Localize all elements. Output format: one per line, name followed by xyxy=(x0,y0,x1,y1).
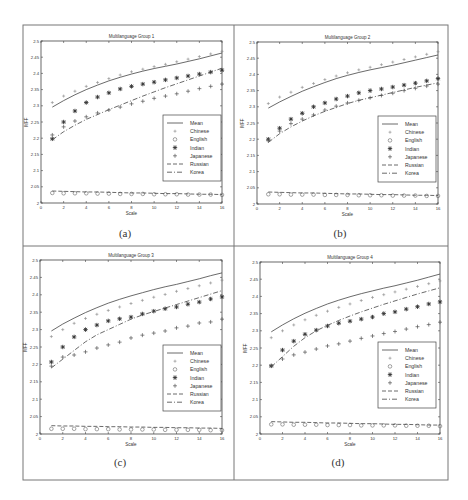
y-tick-label: 2.3 xyxy=(33,103,39,108)
y-tick-label: 2.15 xyxy=(30,379,39,384)
figure: Multilanguage Group 1024681012141622.052… xyxy=(0,0,468,500)
y-tick-label: 2.3 xyxy=(32,327,38,332)
x-tick-label: 10 xyxy=(152,205,157,210)
y-tick-label: 2.05 xyxy=(250,414,259,419)
x-tick-label: 14 xyxy=(197,436,202,441)
legend-label: Russian xyxy=(405,388,424,394)
legend: MeanChineseEnglishIndianJapaneseRussianK… xyxy=(163,345,221,411)
legend-label: Mean xyxy=(405,121,418,127)
caption-b: (b) xyxy=(334,227,347,240)
y-tick-label: 2.2 xyxy=(33,136,39,141)
legend-label: Russian xyxy=(190,161,209,167)
y-tick-label: 2.3 xyxy=(249,104,255,109)
y-tick-label: 2.5 xyxy=(249,40,255,45)
x-tick-label: 10 xyxy=(370,436,375,441)
y-tick-label: 2.35 xyxy=(30,310,39,315)
legend-label: Korea xyxy=(405,170,419,176)
chart-title: Multilanguage Group 2 xyxy=(325,35,371,40)
x-tick-label: 14 xyxy=(413,206,418,211)
legend-label: Indian xyxy=(405,146,419,152)
legend-label: Korea xyxy=(190,399,204,405)
y-tick-label: 2.1 xyxy=(252,397,258,402)
y-tick-label: 2.2 xyxy=(249,137,255,142)
legend-label: Indian xyxy=(190,145,204,151)
x-tick-label: 14 xyxy=(197,205,202,210)
y-tick-label: 2.4 xyxy=(32,292,38,297)
x-tick-label: 16 xyxy=(220,205,225,210)
y-tick-label: 2.2 xyxy=(32,362,38,367)
y-tick-label: 2.35 xyxy=(250,311,259,316)
chart-title: Multilanguage Group 4 xyxy=(327,255,373,260)
caption-c: (c) xyxy=(114,456,127,469)
legend-label: Korea xyxy=(190,169,204,175)
y-tick-label: 2.35 xyxy=(247,88,256,93)
legend-label: Indian xyxy=(405,372,419,378)
legend-label: English xyxy=(190,136,207,142)
legend: MeanChineseEnglishIndianJapaneseRussianK… xyxy=(378,342,436,408)
chart-title: Multilanguage Group 3 xyxy=(108,253,154,258)
x-tick-label: 12 xyxy=(393,436,398,441)
y-tick-label: 2.25 xyxy=(247,121,256,126)
y-axis-label: MFF xyxy=(23,342,28,351)
y-tick-label: 2.15 xyxy=(250,380,259,385)
legend-label: English xyxy=(190,366,207,372)
x-tick-label: 12 xyxy=(174,436,179,441)
y-tick-label: 2.2 xyxy=(252,363,258,368)
legend-label: English xyxy=(405,363,422,369)
y-tick-label: 2.1 xyxy=(249,169,255,174)
y-tick-label: 2.5 xyxy=(252,260,258,265)
x-tick-label: 10 xyxy=(151,436,156,441)
legend-label: Russian xyxy=(405,162,424,168)
x-tick-label: 10 xyxy=(368,206,373,211)
y-tick-label: 2.5 xyxy=(33,39,39,44)
y-axis-label: MFF xyxy=(240,118,245,127)
legend: MeanChineseEnglishIndianJapaneseRussianK… xyxy=(163,115,221,181)
x-tick-label: 12 xyxy=(174,205,179,210)
y-tick-label: 2.3 xyxy=(252,328,258,333)
y-axis-label: MFF xyxy=(24,117,29,126)
x-axis-label: Scale xyxy=(126,211,138,216)
legend-label: Mean xyxy=(190,350,203,356)
y-tick-label: 2.15 xyxy=(31,152,40,157)
legend-label: English xyxy=(405,137,422,143)
legend-label: Japanese xyxy=(190,153,213,159)
y-tick-label: 2.45 xyxy=(30,275,39,280)
legend-label: Japanese xyxy=(190,383,213,389)
legend-label: Mean xyxy=(190,120,203,126)
y-tick-label: 2.45 xyxy=(250,277,259,282)
y-tick-label: 2.4 xyxy=(33,71,39,76)
x-axis-label: Scale xyxy=(344,442,356,447)
y-tick-label: 2.25 xyxy=(30,345,39,350)
chart-title: Multilanguage Group 1 xyxy=(109,34,155,39)
legend-label: Chinese xyxy=(190,128,209,134)
legend-label: Mean xyxy=(405,347,418,353)
caption-d: (d) xyxy=(332,456,345,469)
legend-label: Korea xyxy=(405,396,419,402)
y-tick-label: 2.05 xyxy=(247,185,256,190)
y-tick-label: 2.05 xyxy=(31,184,40,189)
y-tick-label: 2.45 xyxy=(31,55,40,60)
legend-label: Japanese xyxy=(405,154,428,160)
y-tick-label: 2.05 xyxy=(30,414,39,419)
y-tick-label: 2.25 xyxy=(31,120,40,125)
caption-a: (a) xyxy=(119,227,132,240)
legend-label: Russian xyxy=(190,391,209,397)
legend-label: Indian xyxy=(190,375,204,381)
x-axis-label: Scale xyxy=(342,212,354,217)
y-axis-label: MFF xyxy=(243,343,248,352)
x-axis-label: Scale xyxy=(125,442,137,447)
legend: MeanChineseEnglishIndianJapaneseRussianK… xyxy=(378,116,436,182)
legend-label: Japanese xyxy=(405,380,428,386)
y-tick-label: 2.5 xyxy=(32,258,38,263)
legend-label: Chinese xyxy=(405,355,424,361)
y-tick-label: 2.1 xyxy=(32,397,38,402)
x-tick-label: 14 xyxy=(415,436,420,441)
y-tick-label: 2.45 xyxy=(247,56,256,61)
x-tick-label: 16 xyxy=(438,436,443,441)
y-tick-label: 2.25 xyxy=(250,346,259,351)
y-tick-label: 2.35 xyxy=(31,87,40,92)
legend-label: Chinese xyxy=(190,358,209,364)
y-tick-label: 2.4 xyxy=(252,294,258,299)
x-tick-label: 12 xyxy=(390,206,395,211)
y-tick-label: 2.4 xyxy=(249,72,255,77)
